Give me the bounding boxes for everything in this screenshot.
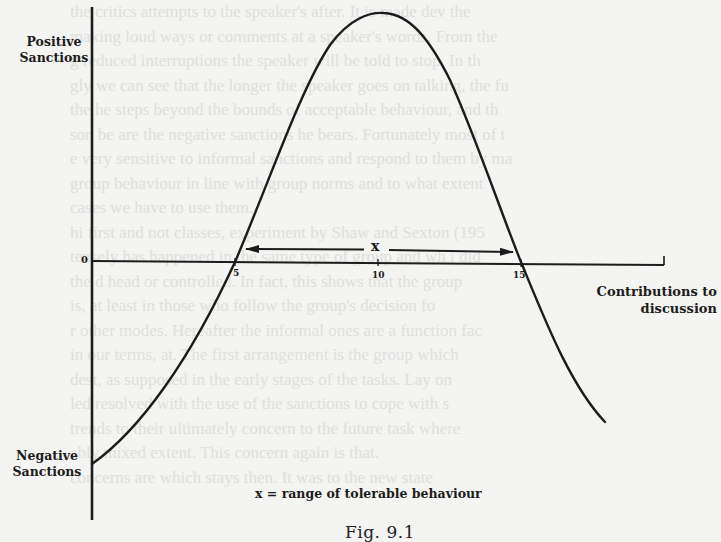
x-label-line2: discussion — [560, 300, 717, 317]
range-arrow-left — [246, 249, 364, 250]
y-label-positive-line2: Sanctions — [18, 50, 90, 66]
sanctions-curve — [92, 13, 605, 464]
tick-label-5: 5 — [233, 268, 239, 278]
tick-label-15: 15 — [513, 270, 526, 280]
y-axis-label-negative: Negative Sanctions — [10, 448, 84, 480]
range-marker-label: x — [371, 238, 379, 254]
x-axis-label: Contributions to discussion — [560, 283, 717, 317]
range-arrow-right — [389, 250, 513, 252]
y-label-negative-line2: Sanctions — [10, 464, 84, 480]
y-axis-label-positive: Positive Sanctions — [18, 34, 90, 66]
figure-caption: Fig. 9.1 — [345, 522, 415, 542]
range-definition-note: x = range of tolerable behaviour — [255, 486, 482, 501]
tick-label-10: 10 — [372, 270, 385, 280]
origin-label: 0 — [81, 254, 88, 265]
x-label-line1: Contributions to — [560, 283, 717, 300]
y-label-positive-line1: Positive — [18, 34, 90, 50]
y-label-negative-line1: Negative — [10, 448, 84, 464]
